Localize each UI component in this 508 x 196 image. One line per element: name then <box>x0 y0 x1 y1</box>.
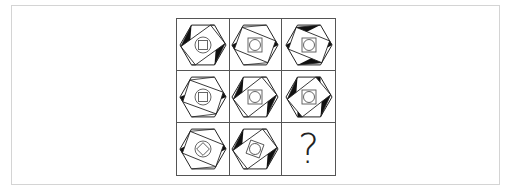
cell-r3-c2 <box>230 123 283 175</box>
hexagon-figure-icon <box>284 72 334 122</box>
question-mark: ? <box>298 129 319 169</box>
hexagon-figure-icon <box>230 124 280 174</box>
puzzle-grid: ? <box>176 18 336 176</box>
hexagon-figure-icon <box>284 20 334 70</box>
cell-r3-c1 <box>177 123 230 175</box>
cell-r3-c3[interactable]: ? <box>282 123 335 175</box>
cell-r2-c3 <box>282 71 335 123</box>
hexagon-figure-icon <box>178 20 228 70</box>
hexagon-figure-icon <box>178 124 228 174</box>
cell-r1-c2 <box>230 19 283 71</box>
hexagon-figure-icon <box>230 20 280 70</box>
cell-r1-c1 <box>177 19 230 71</box>
cell-r2-c2 <box>230 71 283 123</box>
cell-r2-c1 <box>177 71 230 123</box>
hexagon-figure-icon <box>178 72 228 122</box>
hexagon-figure-icon <box>230 72 280 122</box>
cell-r1-c3 <box>282 19 335 71</box>
